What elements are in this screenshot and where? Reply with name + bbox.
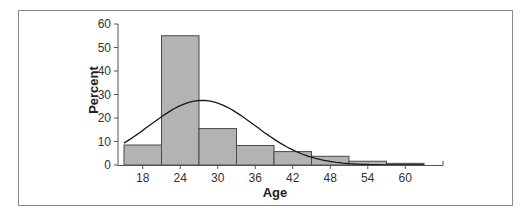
x-tick-label: 18 [136, 171, 150, 185]
y-tick-label: 0 [104, 158, 111, 172]
x-axis-ticks: 1824303642485460 [136, 166, 412, 186]
x-tick-label: 30 [211, 171, 225, 185]
histogram-chart: 0102030405060 1824303642485460 Age Perce… [0, 0, 529, 217]
x-axis-title: Age [263, 185, 288, 200]
histogram-bar-42 [274, 152, 312, 165]
y-axis-title: Percent [86, 65, 101, 113]
x-tick-label: 48 [324, 171, 338, 185]
x-tick-label: 24 [174, 171, 188, 185]
histogram-bar-30 [199, 129, 237, 165]
x-tick-label: 36 [249, 171, 263, 185]
y-tick-label: 50 [98, 41, 112, 55]
histogram-bar-18 [124, 145, 162, 165]
x-tick-label: 60 [399, 171, 413, 185]
bars-group [124, 36, 424, 165]
histogram-bar-36 [237, 145, 275, 165]
y-tick-label: 60 [98, 17, 112, 31]
histogram-bar-24 [162, 36, 200, 165]
x-tick-label: 42 [286, 171, 300, 185]
y-tick-label: 10 [98, 135, 112, 149]
x-tick-label: 54 [361, 171, 375, 185]
